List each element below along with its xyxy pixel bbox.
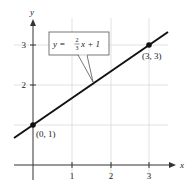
point-label-3-3: (3, 3): [142, 51, 162, 61]
equation-denominator: 3: [76, 45, 79, 51]
chart-svg: 1 2 3 2 3 x y (0, 1) (3, 3) y = 2 3 x + …: [0, 0, 193, 193]
x-tick-label-1: 1: [70, 171, 75, 181]
x-axis-arrow-icon: [169, 162, 176, 168]
equation-prefix: y =: [52, 39, 65, 49]
y-tick-label-3: 3: [22, 40, 27, 50]
point-3-3: [146, 42, 152, 48]
point-label-0-1: (0, 1): [36, 129, 56, 139]
point-0-1: [30, 122, 36, 128]
x-tick-label-3: 3: [147, 171, 152, 181]
ticks: [30, 45, 149, 168]
x-axis-label: x: [179, 160, 184, 170]
y-axis-label: y: [29, 7, 34, 17]
equation-suffix: x + 1: [80, 39, 100, 49]
y-tick-label-2: 2: [22, 80, 27, 90]
y-axis-arrow-icon: [30, 19, 36, 26]
linear-equation-chart: 1 2 3 2 3 x y (0, 1) (3, 3) y = 2 3 x + …: [0, 0, 193, 193]
equation-callout: y = 2 3 x + 1: [49, 32, 109, 82]
equation-numerator: 2: [76, 37, 79, 43]
x-tick-label-2: 2: [109, 171, 114, 181]
